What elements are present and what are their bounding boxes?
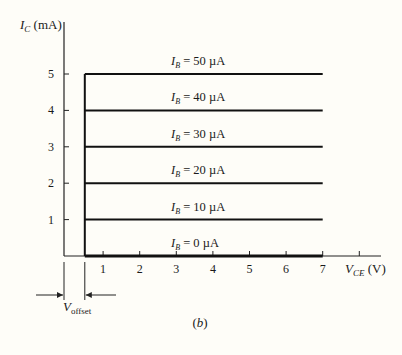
x-axis-label: VCE (V) bbox=[345, 261, 386, 278]
x-tick-label: 4 bbox=[210, 262, 216, 276]
x-tick-label: 2 bbox=[137, 262, 143, 276]
arrowhead-left-icon bbox=[86, 292, 92, 298]
labels: 123451234567IC (mA)VCE (V)IB = 0 µAIB = … bbox=[19, 17, 386, 330]
curve-label-ib-30: IB = 30 µA bbox=[170, 127, 225, 143]
curve-label-ib-50: IB = 50 µA bbox=[170, 54, 225, 70]
y-tick-label: 5 bbox=[48, 67, 54, 81]
x-tick-label: 3 bbox=[173, 262, 179, 276]
y-tick-label: 2 bbox=[48, 176, 54, 190]
curve-label-ib-40: IB = 40 µA bbox=[170, 90, 225, 106]
ic-vce-characteristic-chart: 123451234567IC (mA)VCE (V)IB = 0 µAIB = … bbox=[0, 0, 402, 355]
x-tick-label: 5 bbox=[247, 262, 253, 276]
y-tick-label: 3 bbox=[48, 140, 54, 154]
curve-label-ib-20: IB = 20 µA bbox=[170, 163, 225, 179]
figure-caption: (b) bbox=[192, 315, 207, 330]
x-tick-label: 1 bbox=[100, 262, 106, 276]
y-tick-label: 4 bbox=[48, 103, 54, 117]
curve-label-ib-10: IB = 10 µA bbox=[170, 200, 225, 216]
y-axis-label: IC (mA) bbox=[19, 17, 62, 34]
x-tick-label: 6 bbox=[283, 262, 289, 276]
curve-label-ib-0: IB = 0 µA bbox=[170, 236, 219, 252]
y-tick-label: 1 bbox=[48, 213, 54, 227]
offset-label: Voffset bbox=[63, 299, 92, 316]
x-tick-label: 7 bbox=[320, 262, 326, 276]
arrowhead-right-icon bbox=[57, 292, 63, 298]
